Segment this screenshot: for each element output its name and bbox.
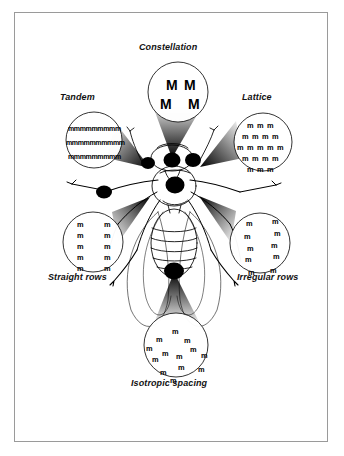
glyph-isotropic-spacing-7: m bbox=[178, 364, 185, 371]
glyph-lattice-2-2: m bbox=[257, 144, 264, 151]
glyph-isotropic-spacing-8: m bbox=[198, 366, 205, 373]
glyph-row-tandem-0: mmmmmmmmm bbox=[68, 125, 121, 132]
glyph-straight-rows-0-0: m bbox=[77, 221, 84, 228]
figure-root: Constellation Tandem Lattice Straight ro… bbox=[0, 0, 344, 456]
receptor-dot-abdomen-tip bbox=[164, 263, 184, 280]
glyph-lattice-1-3: m bbox=[272, 133, 279, 140]
glyph-lattice-0-0: m bbox=[247, 122, 254, 129]
glyph-isotropic-spacing-11: m bbox=[190, 346, 197, 353]
glyph-lattice-3-2: m bbox=[262, 155, 269, 162]
glyph-isotropic-spacing-0: m bbox=[172, 328, 179, 335]
glyph-isotropic-spacing-4: m bbox=[176, 353, 183, 360]
glyph-constellation-3: M bbox=[188, 97, 200, 111]
receptor-dot-left-leg bbox=[96, 186, 112, 199]
callout-circle-constellation bbox=[148, 62, 208, 122]
glyph-lattice-3-3: m bbox=[272, 155, 279, 162]
glyph-irregular-rows-0-4: m bbox=[248, 269, 255, 276]
glyph-irregular-rows-0-1: m bbox=[244, 233, 251, 240]
glyph-irregular-rows-1-0: m bbox=[272, 218, 279, 225]
glyph-straight-rows-1-4: m bbox=[104, 265, 111, 272]
glyph-irregular-rows-1-1: m bbox=[274, 230, 281, 237]
glyph-straight-rows-1-0: m bbox=[104, 221, 111, 228]
glyph-irregular-rows-0-3: m bbox=[245, 256, 252, 263]
glyph-isotropic-spacing-5: m bbox=[201, 352, 208, 359]
glyph-isotropic-spacing-2: m bbox=[184, 337, 191, 344]
glyph-constellation-1: M bbox=[184, 78, 196, 92]
callout-label-lattice: Lattice bbox=[242, 92, 272, 102]
glyph-lattice-4-2: m bbox=[267, 166, 274, 173]
receptor-dot-left-antenna-base bbox=[141, 157, 155, 169]
glyph-lattice-4-1: m bbox=[257, 166, 264, 173]
receptor-dot-thorax bbox=[166, 177, 185, 194]
glyph-isotropic-spacing-6: m bbox=[152, 356, 159, 363]
glyph-lattice-2-0: m bbox=[237, 144, 244, 151]
glyph-lattice-0-2: m bbox=[267, 122, 274, 129]
glyph-lattice-1-1: m bbox=[252, 133, 259, 140]
glyph-lattice-0-1: m bbox=[257, 122, 264, 129]
glyph-row-tandem-2: mmmmmmmmm bbox=[68, 153, 121, 160]
glyph-straight-rows-0-4: m bbox=[77, 265, 84, 272]
callout-label-tandem: Tandem bbox=[60, 92, 95, 102]
glyph-straight-rows-0-3: m bbox=[77, 254, 84, 261]
callout-label-irregular-rows: Irregular rows bbox=[237, 272, 298, 282]
callout-label-straight-rows: Straight rows bbox=[48, 272, 107, 282]
glyph-irregular-rows-0-0: m bbox=[246, 220, 253, 227]
glyph-isotropic-spacing-10: m bbox=[170, 377, 177, 384]
glyph-lattice-3-0: m bbox=[242, 155, 249, 162]
glyph-isotropic-spacing-1: m bbox=[156, 336, 163, 343]
glyph-straight-rows-1-3: m bbox=[104, 254, 111, 261]
callout-circle-straight-rows bbox=[63, 212, 123, 272]
glyph-irregular-rows-1-2: m bbox=[271, 242, 278, 249]
glyph-irregular-rows-1-3: m bbox=[273, 253, 280, 260]
glyph-irregular-rows-1-4: m bbox=[270, 267, 277, 274]
glyph-lattice-3-1: m bbox=[252, 155, 259, 162]
glyph-lattice-4-0: m bbox=[247, 166, 254, 173]
glyph-constellation-0: M bbox=[166, 78, 178, 92]
glyph-straight-rows-0-2: m bbox=[77, 243, 84, 250]
glyph-row-tandem-1: mmmmmmmmmm bbox=[66, 139, 125, 146]
glyph-isotropic-spacing-12: m bbox=[146, 345, 153, 352]
glyph-lattice-2-3: m bbox=[267, 144, 274, 151]
glyph-lattice-2-1: m bbox=[247, 144, 254, 151]
glyph-lattice-1-2: m bbox=[262, 133, 269, 140]
receptor-dot-center-head bbox=[164, 153, 181, 168]
glyph-lattice-2-4: m bbox=[277, 144, 284, 151]
receptor-dot-right-antenna-base bbox=[185, 153, 201, 167]
callout-circle-irregular-rows bbox=[230, 213, 290, 273]
glyph-irregular-rows-0-2: m bbox=[247, 245, 254, 252]
glyph-isotropic-spacing-9: m bbox=[160, 369, 167, 376]
glyph-lattice-1-0: m bbox=[242, 133, 249, 140]
callout-label-constellation: Constellation bbox=[139, 42, 197, 52]
glyph-straight-rows-1-1: m bbox=[104, 232, 111, 239]
glyph-isotropic-spacing-3: m bbox=[162, 350, 169, 357]
glyph-straight-rows-1-2: m bbox=[104, 243, 111, 250]
glyph-constellation-2: M bbox=[160, 97, 172, 111]
glyph-straight-rows-0-1: m bbox=[77, 232, 84, 239]
